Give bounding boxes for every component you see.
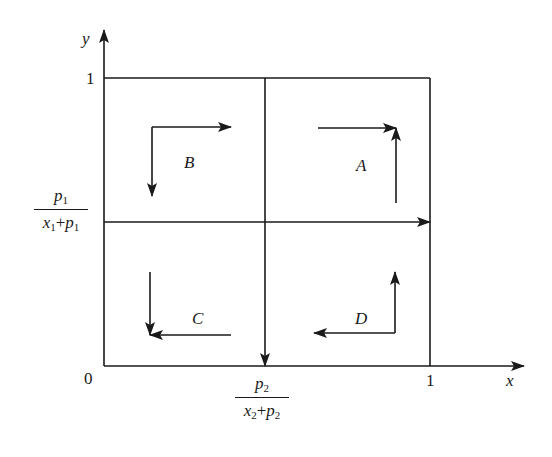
x-threshold-fraction: p2 x2+p2 bbox=[235, 374, 289, 421]
region-label-a: A bbox=[356, 157, 366, 174]
y-tick-1: 1 bbox=[86, 70, 95, 87]
x-tick-1: 1 bbox=[426, 372, 435, 389]
y-axis-label: y bbox=[82, 30, 90, 47]
region-c-arrows bbox=[150, 272, 231, 335]
region-label-b: B bbox=[184, 154, 194, 171]
y-threshold-fraction: p1 x1+p1 bbox=[34, 186, 88, 233]
region-label-d: D bbox=[355, 310, 367, 327]
region-label-c: C bbox=[192, 310, 203, 327]
x-axis-label: x bbox=[506, 372, 514, 389]
origin-label: 0 bbox=[84, 370, 93, 387]
